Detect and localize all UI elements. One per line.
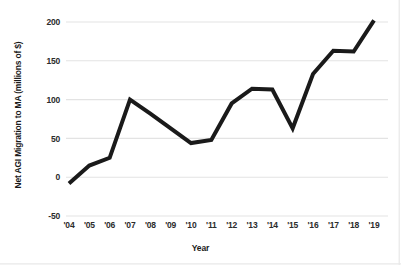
chart-background [0,0,401,265]
x-tick-label: '14 [267,220,278,230]
x-tick-label: '04 [64,220,75,230]
y-tick-label: -50 [48,211,60,221]
x-tick-label: '08 [145,220,156,230]
chart-container: -50050100150200 '04'05'06'07'08'09'10'11… [0,0,401,265]
x-tick-label: '09 [165,220,176,230]
x-tick-label: '07 [125,220,136,230]
y-tick-label: 50 [51,134,61,144]
x-tick-label: '05 [84,220,95,230]
x-tick-label: '19 [369,220,380,230]
x-tick-label: '18 [348,220,359,230]
x-tick-label: '11 [206,220,217,230]
x-tick-label: '17 [328,220,339,230]
x-tick-label: '16 [308,220,319,230]
y-tick-label: 100 [46,95,60,105]
line-chart: -50050100150200 '04'05'06'07'08'09'10'11… [0,0,401,265]
x-tick-label: '13 [247,220,258,230]
x-tick-label: '12 [226,220,237,230]
y-tick-label: 0 [55,172,60,182]
x-tick-label: '06 [104,220,115,230]
x-tick-label: '15 [287,220,298,230]
y-tick-label: 150 [46,56,60,66]
y-tick-label: 200 [46,17,60,27]
x-tick-label: '10 [186,220,197,230]
